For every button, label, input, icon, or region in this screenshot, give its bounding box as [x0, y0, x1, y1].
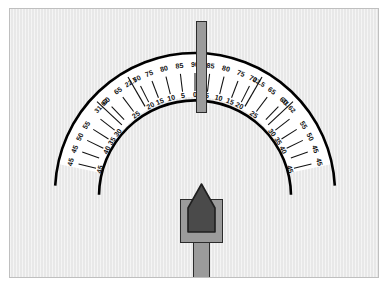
- instrument-plate: 454545504055353031.6260652522.5702075158…: [9, 8, 379, 278]
- scale-label-outer: 45: [285, 164, 295, 174]
- figure-canvas: 454545504055353031.6260652522.5702075158…: [0, 0, 386, 284]
- index-pointer: [179, 182, 224, 234]
- scale-label-inner: 85: [175, 62, 184, 71]
- scale-label-inner: 85: [206, 62, 215, 71]
- pointer-shaft: [193, 239, 210, 278]
- vertical-needle: [196, 21, 207, 113]
